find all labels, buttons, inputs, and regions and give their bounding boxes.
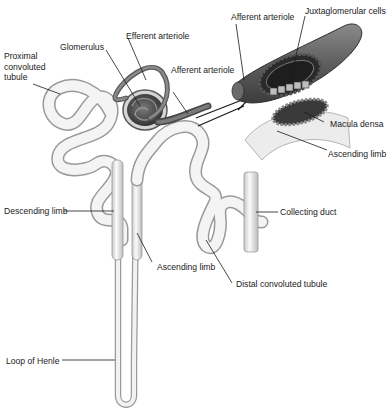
distal-convoluted-tubule — [137, 127, 262, 248]
label-ascending-limb-inset: Ascending limb — [328, 149, 386, 160]
label-ascending-limb: Ascending limb — [157, 262, 215, 273]
label-juxtaglomerular-cells: Juxtaglomerular cells — [305, 6, 386, 17]
label-proximal-convoluted-tubule: Proximal convoluted tubule — [4, 51, 46, 83]
label-collecting-duct: Collecting duct — [280, 207, 336, 218]
juxtaglomerular-inset — [232, 24, 362, 160]
label-afferent-arteriole: Afferent arteriole — [171, 65, 234, 76]
label-distal-convoluted-tubule: Distal convoluted tubule — [236, 279, 327, 290]
label-macula-densa: Macula densa — [330, 119, 384, 130]
proximal-convoluted-tubule — [49, 85, 122, 240]
label-descending-limb: Descending limb — [4, 206, 68, 217]
label-loop-of-henle: Loop of Henle — [6, 356, 60, 367]
label-afferent-arteriole-inset: Afferent arteriole — [231, 12, 294, 23]
collecting-duct — [244, 172, 258, 252]
label-glomerulus: Glomerulus — [60, 42, 104, 53]
label-efferent-arteriole: Efferent arteriole — [126, 31, 189, 42]
loop-of-henle — [112, 160, 142, 405]
